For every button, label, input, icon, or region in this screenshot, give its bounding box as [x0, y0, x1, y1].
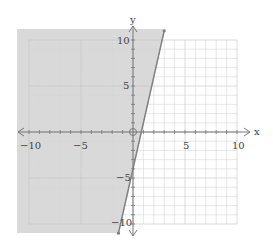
y-tick-label: −10 [111, 217, 132, 228]
inequality-graph: x y −10 −5 5 10 10 5 −5 −10 [0, 0, 273, 247]
x-tick-label: 10 [232, 140, 245, 151]
y-tick-label: 10 [117, 35, 130, 46]
x-tick-label: −10 [20, 140, 41, 151]
x-tick-label: 5 [183, 140, 189, 151]
x-axis-label: x [254, 126, 260, 137]
x-tick-label: −5 [73, 140, 88, 151]
y-axis-label: y [129, 14, 136, 25]
line-endpoint-top [163, 29, 166, 32]
y-tick-label: 5 [123, 80, 129, 91]
y-tick-label: −5 [116, 172, 131, 183]
line-endpoint-bottom [117, 232, 120, 235]
